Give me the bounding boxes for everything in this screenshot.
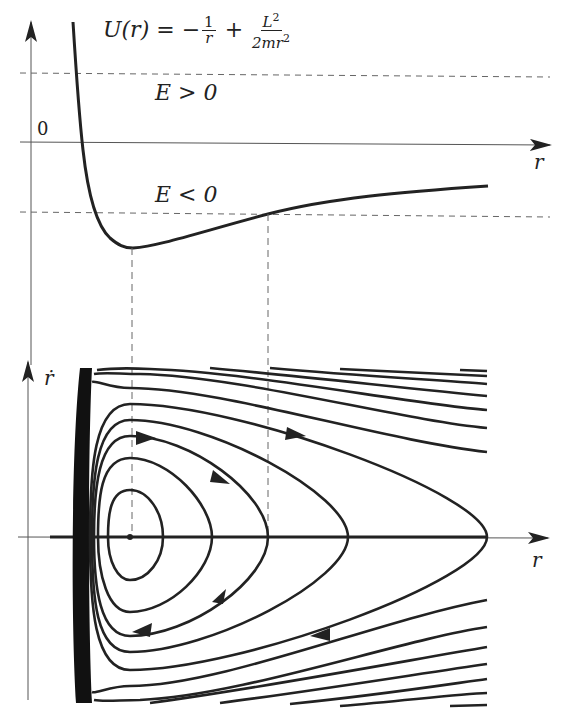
trajectory-lower-1 <box>92 600 487 692</box>
formula-fraction-1: 1r <box>202 15 216 46</box>
top-x-axis <box>20 142 550 145</box>
equilibrium-point <box>127 534 133 540</box>
energy-positive-label: E > 0 <box>155 80 217 105</box>
orbit-1 <box>108 490 163 580</box>
trajectory-upper-2 <box>94 373 487 428</box>
trajectory-upper-7 <box>460 370 487 371</box>
potential-curve <box>73 22 488 248</box>
flow-arrow-right-2 <box>210 470 230 484</box>
zero-label: 0 <box>37 118 48 139</box>
energy-positive-line <box>20 73 550 77</box>
bottom-x-axis-label: r <box>532 548 542 572</box>
formula-fraction-2: L22mr2 <box>252 10 290 51</box>
potential-plot <box>20 22 550 535</box>
orbit-2 <box>98 458 212 612</box>
top-x-axis-label: r <box>534 150 544 174</box>
energy-negative-line <box>20 212 550 217</box>
trajectory-lower-3 <box>150 647 487 703</box>
formula-lhs: U(r) = − <box>103 17 200 42</box>
phase-portrait <box>18 362 548 706</box>
flow-arrow-right-1 <box>136 431 156 445</box>
trajectory-lower-7 <box>450 705 487 706</box>
bottom-y-axis-label: ṙ <box>44 366 54 390</box>
energy-negative-label: E < 0 <box>155 182 217 207</box>
potential-formula: U(r) = −1r + L22mr2 <box>103 10 292 51</box>
trajectory-lower-5 <box>290 679 487 704</box>
trajectory-lower-2 <box>94 627 487 701</box>
formula-plus: + <box>225 17 243 42</box>
effective-potential-phase-portrait <box>0 0 568 721</box>
